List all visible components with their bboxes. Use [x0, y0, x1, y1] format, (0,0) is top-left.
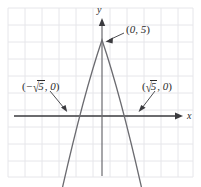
graph-figure: y x (0, 5) (−√5, 0) (√5, 0) — [0, 0, 201, 187]
right-intercept-point-label: (√5, 0) — [142, 80, 172, 92]
x-axis-label: x — [187, 111, 191, 121]
vertex-point-label: (0, 5) — [126, 24, 150, 35]
right-radical-icon: √ — [146, 80, 152, 94]
left-minus-sign: − — [26, 80, 33, 92]
y-axis-label: y — [97, 5, 101, 15]
graph-canvas — [0, 0, 201, 187]
vertex-close-paren: ) — [146, 23, 150, 35]
right-close-paren: ) — [168, 80, 172, 92]
left-radical-icon: √ — [33, 80, 39, 94]
x-axis — [14, 113, 183, 120]
left-close-paren: ) — [56, 80, 60, 92]
right-intercept-leader — [139, 91, 155, 112]
left-intercept-point-label: (−√5, 0) — [22, 80, 59, 92]
